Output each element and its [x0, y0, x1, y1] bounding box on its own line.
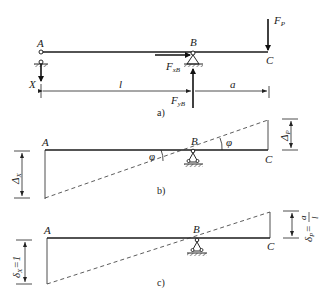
angle-arc-right: [220, 138, 222, 150]
label-delta-x-unit: δX=1: [10, 256, 24, 278]
dim-l: l: [119, 78, 122, 90]
caption-c: c): [157, 277, 165, 289]
label-a: A: [36, 37, 44, 49]
angle-phi-left: φ: [149, 150, 155, 162]
angle-arc-left: [161, 150, 163, 161]
angle-phi-right: φ: [226, 136, 232, 148]
label-b: B: [193, 223, 200, 235]
dim-a: a: [230, 78, 236, 90]
structural-diagram: X A B FxB FyB FP C l a a): [0, 0, 326, 301]
label-fxb: FxB: [165, 60, 181, 74]
support-b: [187, 238, 207, 256]
caption-a: a): [157, 107, 165, 119]
support-b: [184, 149, 203, 167]
label-delta-x: ΔX: [9, 173, 23, 185]
label-c: C: [266, 54, 274, 66]
panel-b: A B C φ φ ΔX ΔP b): [9, 119, 298, 199]
panel-c: A B C δX=1 δP= a l: [10, 211, 320, 289]
label-a: A: [43, 224, 51, 236]
label-delta-p-ratio: δP= a l: [298, 212, 320, 242]
label-b: B: [190, 36, 197, 48]
label-fp: FP: [273, 14, 286, 28]
label-x: X: [28, 78, 37, 90]
dimension-delta-p-ratio: [283, 211, 299, 238]
label-delta-p: ΔP: [278, 130, 292, 142]
unit-deflected-shape: [47, 212, 270, 284]
caption-b: b): [157, 185, 165, 197]
label-b: B: [191, 135, 198, 147]
label-a: A: [41, 136, 49, 148]
label-c: C: [267, 240, 275, 252]
svg-text:l: l: [310, 216, 320, 219]
support-b: [184, 51, 203, 67]
svg-text:δP=: δP=: [302, 225, 316, 242]
svg-text:a: a: [298, 215, 308, 220]
label-fyb: FyB: [170, 94, 186, 108]
panel-a: X A B FxB FyB FP C l a a): [28, 14, 286, 119]
label-c: C: [265, 153, 273, 165]
